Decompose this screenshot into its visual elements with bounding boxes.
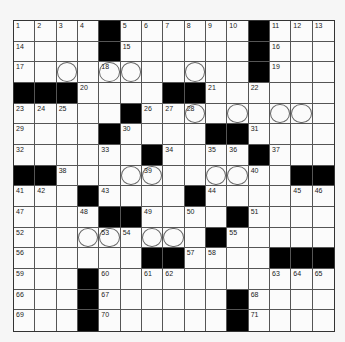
grid-cell[interactable]: 55 xyxy=(227,228,248,249)
grid-cell[interactable] xyxy=(270,186,291,207)
grid-cell[interactable] xyxy=(35,248,56,269)
grid-cell[interactable] xyxy=(313,228,334,249)
grid-cell[interactable] xyxy=(313,124,334,145)
grid-cell[interactable] xyxy=(270,166,291,187)
grid-cell[interactable] xyxy=(313,145,334,166)
grid-cell[interactable]: 30 xyxy=(121,124,142,145)
grid-cell[interactable]: 16 xyxy=(270,42,291,63)
grid-cell[interactable]: 43 xyxy=(99,186,120,207)
grid-cell[interactable]: 2 xyxy=(35,21,56,42)
grid-cell[interactable] xyxy=(291,124,312,145)
grid-cell[interactable] xyxy=(57,124,78,145)
grid-cell[interactable]: 21 xyxy=(206,83,227,104)
grid-cell[interactable] xyxy=(270,290,291,311)
grid-cell[interactable]: 9 xyxy=(206,21,227,42)
grid-cell[interactable]: 58 xyxy=(206,248,227,269)
grid-cell[interactable] xyxy=(163,124,184,145)
grid-cell[interactable]: 1 xyxy=(14,21,35,42)
grid-cell[interactable]: 60 xyxy=(99,269,120,290)
grid-cell[interactable] xyxy=(270,310,291,331)
grid-cell[interactable] xyxy=(227,248,248,269)
grid-cell[interactable] xyxy=(163,310,184,331)
grid-cell[interactable] xyxy=(142,310,163,331)
grid-cell[interactable]: 68 xyxy=(249,290,270,311)
grid-cell[interactable] xyxy=(227,83,248,104)
grid-cell[interactable] xyxy=(291,104,312,125)
grid-cell[interactable] xyxy=(78,145,99,166)
grid-cell[interactable] xyxy=(57,248,78,269)
grid-cell[interactable] xyxy=(313,62,334,83)
grid-cell[interactable] xyxy=(291,207,312,228)
grid-cell[interactable] xyxy=(185,228,206,249)
grid-cell[interactable] xyxy=(249,269,270,290)
grid-cell[interactable] xyxy=(291,290,312,311)
grid-cell[interactable]: 4 xyxy=(78,21,99,42)
grid-cell[interactable]: 32 xyxy=(14,145,35,166)
grid-cell[interactable]: 70 xyxy=(99,310,120,331)
grid-cell[interactable] xyxy=(57,310,78,331)
grid-cell[interactable] xyxy=(35,228,56,249)
grid-cell[interactable]: 27 xyxy=(163,104,184,125)
grid-cell[interactable] xyxy=(121,310,142,331)
grid-cell[interactable] xyxy=(185,145,206,166)
grid-cell[interactable] xyxy=(121,166,142,187)
grid-cell[interactable] xyxy=(227,104,248,125)
grid-cell[interactable] xyxy=(121,290,142,311)
grid-cell[interactable]: 52 xyxy=(14,228,35,249)
grid-cell[interactable] xyxy=(270,207,291,228)
grid-cell[interactable]: 65 xyxy=(313,269,334,290)
grid-cell[interactable] xyxy=(78,248,99,269)
grid-cell[interactable] xyxy=(249,104,270,125)
grid-cell[interactable]: 11 xyxy=(270,21,291,42)
grid-cell[interactable]: 28 xyxy=(185,104,206,125)
grid-cell[interactable] xyxy=(313,207,334,228)
grid-cell[interactable] xyxy=(206,269,227,290)
grid-cell[interactable]: 18 xyxy=(99,62,120,83)
grid-cell[interactable] xyxy=(270,104,291,125)
grid-cell[interactable]: 57 xyxy=(185,248,206,269)
grid-cell[interactable] xyxy=(185,124,206,145)
grid-cell[interactable]: 69 xyxy=(14,310,35,331)
grid-cell[interactable]: 13 xyxy=(313,21,334,42)
grid-cell[interactable] xyxy=(142,42,163,63)
grid-cell[interactable]: 49 xyxy=(142,207,163,228)
grid-cell[interactable] xyxy=(291,228,312,249)
grid-cell[interactable] xyxy=(35,145,56,166)
grid-cell[interactable] xyxy=(227,166,248,187)
grid-cell[interactable] xyxy=(35,42,56,63)
grid-cell[interactable] xyxy=(35,62,56,83)
grid-cell[interactable]: 53 xyxy=(99,228,120,249)
grid-cell[interactable] xyxy=(206,310,227,331)
grid-cell[interactable] xyxy=(99,83,120,104)
grid-cell[interactable] xyxy=(163,42,184,63)
grid-cell[interactable] xyxy=(121,62,142,83)
grid-cell[interactable] xyxy=(185,166,206,187)
grid-cell[interactable]: 41 xyxy=(14,186,35,207)
grid-cell[interactable] xyxy=(57,269,78,290)
grid-cell[interactable]: 12 xyxy=(291,21,312,42)
grid-cell[interactable]: 38 xyxy=(57,166,78,187)
grid-cell[interactable] xyxy=(99,166,120,187)
grid-cell[interactable]: 63 xyxy=(270,269,291,290)
grid-cell[interactable]: 62 xyxy=(163,269,184,290)
grid-cell[interactable] xyxy=(206,166,227,187)
grid-cell[interactable] xyxy=(291,310,312,331)
grid-cell[interactable] xyxy=(313,83,334,104)
grid-cell[interactable] xyxy=(57,186,78,207)
grid-cell[interactable]: 59 xyxy=(14,269,35,290)
grid-cell[interactable] xyxy=(121,145,142,166)
grid-cell[interactable]: 14 xyxy=(14,42,35,63)
grid-cell[interactable]: 23 xyxy=(14,104,35,125)
grid-cell[interactable] xyxy=(270,228,291,249)
grid-cell[interactable] xyxy=(57,62,78,83)
grid-cell[interactable] xyxy=(163,62,184,83)
grid-cell[interactable] xyxy=(313,104,334,125)
grid-cell[interactable]: 47 xyxy=(14,207,35,228)
grid-cell[interactable]: 50 xyxy=(185,207,206,228)
grid-cell[interactable] xyxy=(163,228,184,249)
grid-cell[interactable] xyxy=(78,124,99,145)
grid-cell[interactable] xyxy=(206,290,227,311)
grid-cell[interactable] xyxy=(249,186,270,207)
grid-cell[interactable] xyxy=(78,42,99,63)
grid-cell[interactable] xyxy=(185,269,206,290)
